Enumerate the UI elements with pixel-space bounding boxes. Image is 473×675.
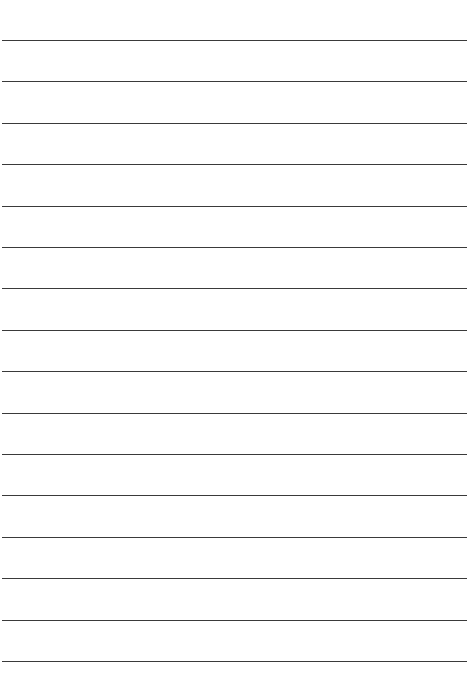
ruled-line xyxy=(2,164,467,165)
ruled-line xyxy=(2,371,467,372)
ruled-line xyxy=(2,40,467,41)
ruled-line xyxy=(2,661,467,662)
ruled-line xyxy=(2,81,467,82)
ruled-line xyxy=(2,206,467,207)
ruled-line xyxy=(2,537,467,538)
ruled-line xyxy=(2,454,467,455)
ruled-line xyxy=(2,330,467,331)
ruled-line xyxy=(2,123,467,124)
ruled-line xyxy=(2,247,467,248)
ruled-line xyxy=(2,620,467,621)
ruled-line xyxy=(2,288,467,289)
ruled-line xyxy=(2,578,467,579)
ruled-line xyxy=(2,413,467,414)
ruled-line xyxy=(2,495,467,496)
